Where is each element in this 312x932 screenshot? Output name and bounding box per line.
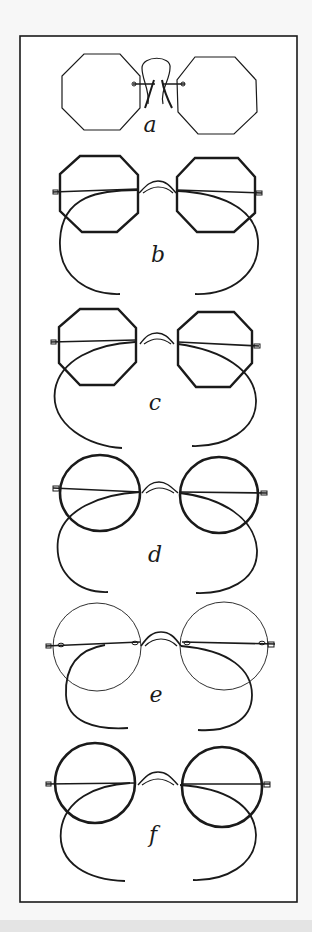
temple-bar-right — [180, 492, 267, 493]
label-e: e — [149, 682, 162, 707]
label-d: d — [148, 542, 162, 567]
plate-svg: a b c — [0, 0, 312, 932]
eyeglasses-illustration-plate: a b c — [0, 0, 312, 932]
label-c: c — [149, 390, 161, 415]
label-b: b — [151, 242, 165, 267]
label-a: a — [143, 112, 156, 137]
scan-edge-strip — [0, 920, 312, 932]
